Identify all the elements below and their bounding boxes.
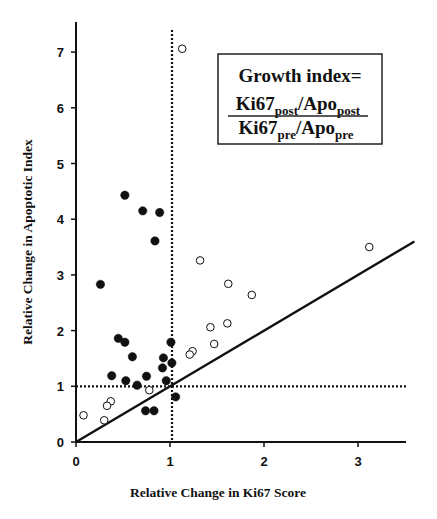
filled-data-point (142, 372, 150, 380)
filled-data-point (128, 353, 136, 361)
y-axis-ticks: 01234567 (57, 45, 76, 450)
y-tick-label: 7 (57, 45, 64, 60)
open-data-point (207, 323, 215, 331)
filled-data-point (151, 237, 159, 245)
filled-data-point (168, 359, 176, 367)
filled-data-point (162, 377, 170, 385)
denominator-ki67: Ki67 (238, 117, 278, 138)
y-tick-label: 0 (57, 435, 64, 450)
open-data-point (224, 320, 232, 328)
filled-data-point (171, 393, 179, 401)
filled-data-point (121, 338, 129, 346)
open-data-point (248, 291, 256, 299)
y-tick-label: 6 (57, 101, 64, 116)
filled-data-point (122, 377, 130, 385)
filled-data-point (121, 191, 129, 199)
filled-data-point (167, 338, 175, 346)
x-tick-label: 0 (72, 454, 79, 469)
numerator-apo: Apo (303, 93, 337, 114)
scatter-chart: 01234567 0123 Relative Change in Ki67 Sc… (0, 0, 437, 519)
y-tick-label: 2 (57, 324, 64, 339)
y-axis-title: Relative Change in Apoptotic Index (20, 139, 35, 345)
x-tick-label: 3 (354, 454, 361, 469)
open-data-point (186, 351, 194, 359)
denominator-apo-sub: pre (335, 127, 354, 142)
y-tick-label: 5 (57, 157, 64, 172)
filled-data-point (155, 208, 163, 216)
open-data-point (210, 340, 218, 348)
numerator-ki67: Ki67 (236, 93, 276, 114)
filled-data-point (150, 407, 158, 415)
filled-data-point (139, 207, 147, 215)
denominator-ki67-sub: pre (277, 127, 296, 142)
filled-data-point (108, 372, 116, 380)
open-data-point (224, 280, 232, 288)
growth-index-title: Growth index= (239, 65, 362, 86)
open-data-point (80, 411, 88, 419)
open-data-point (196, 257, 204, 265)
x-tick-label: 1 (166, 454, 173, 469)
filled-data-point (141, 407, 149, 415)
open-data-point (178, 45, 186, 53)
y-tick-label: 4 (57, 212, 65, 227)
filled-data-point (158, 364, 166, 372)
filled-data-point (159, 354, 167, 362)
filled-data-point (96, 280, 104, 288)
open-data-point (146, 386, 154, 394)
open-data-point (365, 243, 373, 251)
open-data-point (103, 402, 111, 410)
y-tick-label: 1 (57, 379, 64, 394)
x-tick-label: 2 (260, 454, 267, 469)
filled-data-point (133, 381, 141, 389)
growth-index-box: Growth index= Ki67post/Apopost Ki67pre/A… (218, 54, 382, 144)
open-data-point (100, 416, 108, 424)
denominator-apo: Apo (301, 117, 335, 138)
x-axis-ticks: 0123 (72, 442, 361, 469)
y-tick-label: 3 (57, 268, 64, 283)
x-axis-title: Relative Change in Ki67 Score (130, 485, 306, 500)
